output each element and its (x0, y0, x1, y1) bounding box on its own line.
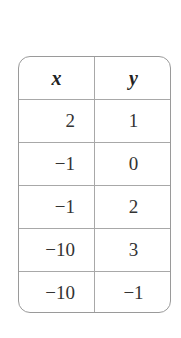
cell-x: −1 (19, 143, 95, 185)
header-y: y (95, 57, 170, 99)
cell-y: 3 (95, 229, 170, 271)
cell-y: 0 (95, 143, 170, 185)
xy-table: x y 2 1 −1 0 −1 2 −10 3 −10 −1 (18, 56, 171, 313)
table-row: 2 1 (19, 99, 170, 142)
cell-x: 2 (19, 100, 95, 142)
table-row: −10 3 (19, 228, 170, 271)
table-row: −1 0 (19, 142, 170, 185)
cell-x: −1 (19, 186, 95, 228)
cell-x: −10 (19, 229, 95, 271)
header-x: x (19, 57, 95, 99)
cell-y: −1 (95, 272, 170, 313)
cell-y: 2 (95, 186, 170, 228)
cell-x: −10 (19, 272, 95, 313)
table-row: −1 2 (19, 185, 170, 228)
cell-y: 1 (95, 100, 170, 142)
table-row: −10 −1 (19, 271, 170, 313)
header-row: x y (19, 57, 170, 99)
